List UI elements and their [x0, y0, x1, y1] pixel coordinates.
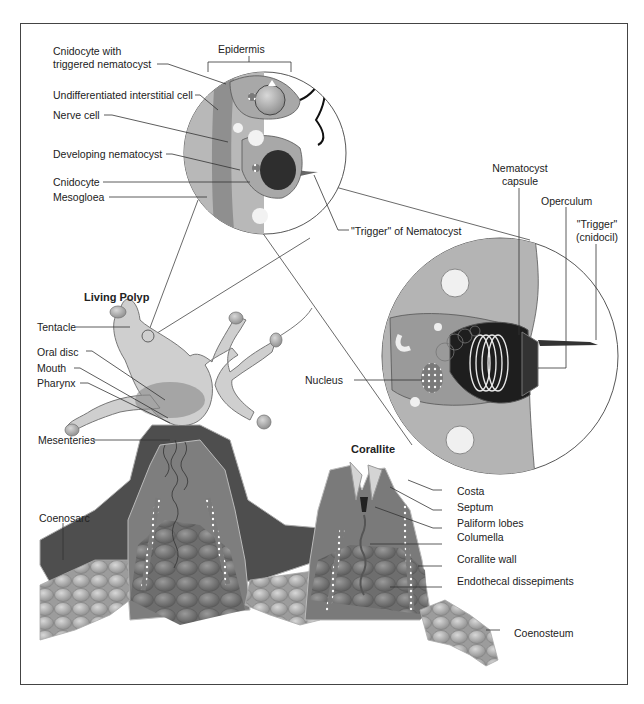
- label-nematocyst-capsule-line2: capsule: [492, 175, 548, 187]
- label-trigger-cnidocil-line1: "Trigger": [574, 218, 620, 230]
- label-pharynx: Pharynx: [37, 377, 76, 389]
- label-endothecal-dissepiments: Endothecal dissepiments: [457, 575, 574, 587]
- label-trigger-of-nematocyst: "Trigger" of Nematocyst: [351, 225, 461, 237]
- label-mouth: Mouth: [37, 362, 66, 374]
- label-paliform-lobes: Paliform lobes: [457, 517, 524, 529]
- label-nerve-cell: Nerve cell: [53, 109, 100, 121]
- heading-corallite: Corallite: [351, 443, 395, 455]
- label-tentacle: Tentacle: [37, 321, 76, 333]
- diagram-artwork: [0, 0, 644, 704]
- label-developing-nematocyst: Developing nematocyst: [53, 148, 162, 160]
- oral-disc-shading: [135, 382, 205, 418]
- label-cnidocyte-triggered-line2: triggered nematocyst: [53, 58, 151, 70]
- label-nucleus: Nucleus: [305, 374, 343, 386]
- label-nematocyst-capsule-line1: Nematocyst: [492, 162, 548, 174]
- label-coenosarc: Coenosarc: [39, 512, 90, 524]
- label-mesogloea: Mesogloea: [53, 191, 104, 203]
- label-mesenteries: Mesenteries: [38, 434, 95, 446]
- label-corallite-wall: Corallite wall: [457, 553, 517, 565]
- heading-living-polyp: Living Polyp: [84, 291, 149, 303]
- label-trigger-cnidocil-line2: (cnidocil): [574, 231, 620, 243]
- label-cnidocyte: Cnidocyte: [53, 176, 100, 188]
- living-polyp-base: [40, 425, 320, 640]
- nematocyst-magnified-circle: [382, 238, 618, 476]
- label-columella: Columella: [457, 531, 504, 543]
- label-interstitial-cell: Undifferentiated interstitial cell: [53, 89, 193, 101]
- label-septum: Septum: [457, 501, 493, 513]
- label-operculum: Operculum: [541, 195, 592, 207]
- label-epidermis: Epidermis: [218, 43, 265, 55]
- epidermis-magnified-circle: [184, 72, 346, 240]
- label-coenosteum: Coenosteum: [514, 627, 574, 639]
- label-costa: Costa: [457, 485, 484, 497]
- label-oral-disc: Oral disc: [37, 346, 78, 358]
- label-cnidocyte-triggered-line1: Cnidocyte with: [53, 45, 121, 57]
